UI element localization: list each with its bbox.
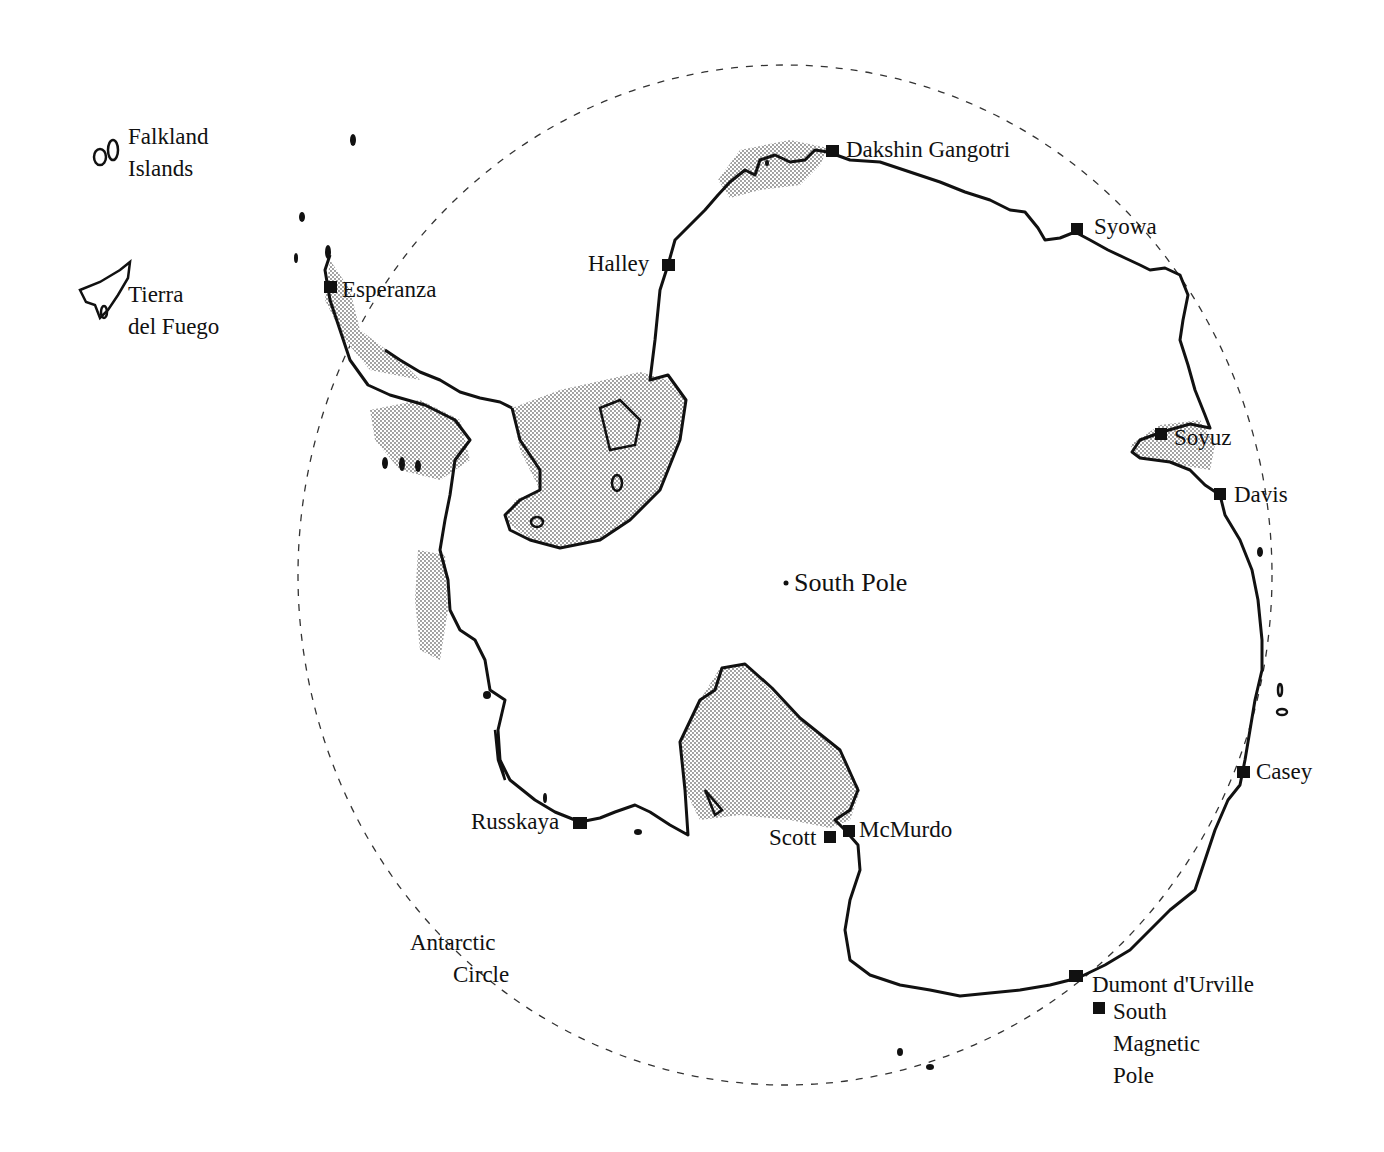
falkland-label-2: Islands xyxy=(128,154,193,184)
south-pole-label: South Pole xyxy=(794,568,907,598)
marker-esperanza xyxy=(324,281,337,293)
magnetic-pole-label-3: Pole xyxy=(1113,1061,1154,1091)
marker-halley xyxy=(662,259,675,271)
station-label-dumont-durville: Dumont d'Urville xyxy=(1092,970,1254,1000)
marker-south-magnetic-pole xyxy=(1093,1002,1105,1014)
marker-davis xyxy=(1214,488,1226,500)
falkland-east xyxy=(108,140,118,160)
station-label-dakshin-gangotri: Dakshin Gangotri xyxy=(846,135,1010,165)
station-label-davis: Davis xyxy=(1234,480,1288,510)
tierra-del-fuego-outline xyxy=(80,262,130,318)
marker-soyuz xyxy=(1155,428,1167,440)
marker-russkaya xyxy=(573,817,587,829)
falkland-label-1: Falkland xyxy=(128,122,209,152)
station-label-russkaya: Russkaya xyxy=(471,807,559,837)
ice-shelves xyxy=(325,140,1215,828)
marker-mcmurdo xyxy=(843,825,855,837)
antarctic-circle-label-2: Circle xyxy=(453,960,509,990)
station-label-esperanza: Esperanza xyxy=(342,275,437,305)
antarctic-circle-label-1: Antarctic xyxy=(410,928,496,958)
marker-syowa xyxy=(1071,223,1083,235)
station-label-mcmurdo: McMurdo xyxy=(859,815,952,845)
station-label-casey: Casey xyxy=(1256,757,1312,787)
south-pole-dot xyxy=(784,581,789,586)
weddell-coast-shelf xyxy=(718,140,828,198)
station-label-halley: Halley xyxy=(588,249,649,279)
falkland-west xyxy=(94,149,106,165)
tierra-label-2: del Fuego xyxy=(128,312,219,342)
tierra-label-1: Tierra xyxy=(128,280,183,310)
station-label-syowa: Syowa xyxy=(1094,212,1157,242)
station-markers xyxy=(324,145,1250,1014)
magnetic-pole-label-2: Magnetic xyxy=(1113,1029,1200,1059)
ross-shelf xyxy=(680,665,860,828)
magnetic-pole-label-1: South xyxy=(1113,997,1167,1027)
marker-casey xyxy=(1237,766,1250,778)
station-label-soyuz: Soyuz xyxy=(1174,423,1232,453)
marker-scott xyxy=(824,831,836,843)
station-label-scott: Scott xyxy=(769,823,816,853)
marker-dakshin-gangotri xyxy=(826,145,839,157)
marker-dumont-durville xyxy=(1069,970,1083,982)
